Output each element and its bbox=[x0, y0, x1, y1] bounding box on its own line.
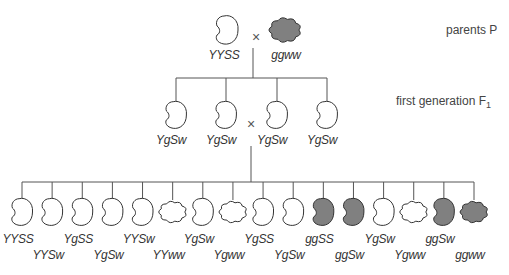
f2-yellow-smooth-seed-icon bbox=[283, 198, 304, 225]
f2-yellow-smooth-seed-icon bbox=[132, 198, 153, 225]
f1-genotype-label: YgSw bbox=[206, 133, 236, 147]
f1-yellow-smooth-seed-icon bbox=[317, 101, 338, 128]
f2-genotype-label: YgSw bbox=[274, 248, 304, 262]
f2-yellow-smooth-seed-icon bbox=[12, 198, 33, 225]
f2-yellow-smooth-seed-icon bbox=[42, 198, 63, 225]
parent-genotype-label: YYSS bbox=[209, 48, 240, 62]
f2-genotype-label: YYSw bbox=[32, 248, 63, 262]
f1-label-text: first generation F bbox=[396, 94, 486, 108]
f2-genotype-label: YgSS bbox=[64, 232, 94, 246]
f2-genotype-label: ggSw bbox=[425, 232, 454, 246]
f1-label: first generation F1 bbox=[396, 94, 491, 110]
f2-yellow-wrinkled-seed-icon bbox=[159, 201, 186, 222]
parent-genotype-label: ggww bbox=[271, 48, 300, 62]
f1-genotype-label: YgSw bbox=[156, 133, 186, 147]
f2-genotype-label: ggww bbox=[455, 248, 484, 262]
f2-genotype-label: ggSw bbox=[335, 248, 364, 262]
f1-yellow-smooth-seed-icon bbox=[216, 101, 237, 128]
f2-yellow-smooth-seed-icon bbox=[72, 198, 93, 225]
f1-cross-symbol: × bbox=[247, 116, 255, 132]
f2-genotype-label: YgSw bbox=[93, 248, 123, 262]
f2-genotype-label: YgSS bbox=[244, 232, 274, 246]
parent-yellow-smooth-seed-icon bbox=[216, 16, 238, 45]
parent-green-wrinkled-seed-icon bbox=[269, 18, 300, 42]
f2-genotype-label: Ygww bbox=[214, 248, 245, 262]
f2-genotype-label: YYSS bbox=[3, 232, 34, 246]
f1-label-subscript: 1 bbox=[486, 100, 491, 110]
f2-genotype-label: YYww bbox=[153, 248, 185, 262]
f2-yellow-smooth-seed-icon bbox=[102, 198, 123, 225]
f2-genotype-label: YYSw bbox=[123, 232, 154, 246]
f2-genotype-label: Ygww bbox=[394, 248, 425, 262]
f2-green-smooth-seed-icon bbox=[313, 198, 334, 225]
f2-yellow-wrinkled-seed-icon bbox=[219, 201, 246, 222]
parents-cross-symbol: × bbox=[252, 29, 260, 45]
f1-genotype-label: YgSw bbox=[257, 133, 287, 147]
f1-yellow-smooth-seed-icon bbox=[267, 101, 288, 128]
f2-genotype-label: YgSw bbox=[184, 232, 214, 246]
f2-green-smooth-seed-icon bbox=[434, 198, 455, 225]
f2-green-wrinkled-seed-icon bbox=[460, 201, 487, 222]
f2-yellow-wrinkled-seed-icon bbox=[400, 201, 427, 222]
f1-genotype-label: YgSw bbox=[307, 133, 337, 147]
f1-yellow-smooth-seed-icon bbox=[166, 101, 187, 128]
f2-yellow-smooth-seed-icon bbox=[253, 198, 274, 225]
mendel-dihybrid-cross-diagram: parents P first generation F1 × × YYSSgg… bbox=[0, 0, 509, 275]
f2-green-smooth-seed-icon bbox=[343, 198, 364, 225]
f2-genotype-label: ggSS bbox=[305, 232, 333, 246]
f2-yellow-smooth-seed-icon bbox=[193, 198, 214, 225]
f2-yellow-smooth-seed-icon bbox=[373, 198, 394, 225]
parents-label: parents P bbox=[446, 23, 497, 37]
f2-genotype-label: YgSw bbox=[365, 232, 395, 246]
